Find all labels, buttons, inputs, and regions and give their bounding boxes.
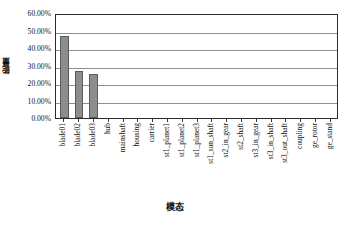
bar-chart: 能量 60.00%50.00%40.00%30.00%20.00%10.00%0… [0,0,349,231]
y-axis-tick-label: 10.00% [28,98,51,106]
bar-slot [233,15,248,118]
x-axis-tick-label: blade03 [89,123,97,146]
bar-slot [72,15,87,118]
bar-slot [160,15,175,118]
bar-slot [86,15,101,118]
x-axis-tick-label-slot: st1_planet1 [160,123,175,195]
x-axis-tick-label-slot: blade01 [56,123,71,195]
x-axis-tick-label: mainshaft [119,123,127,152]
x-axis-tick-label: st2_in_gear [222,123,230,157]
x-axis-tick-label-slot: coupling [293,123,308,195]
x-axis-tick-label-slot: carrier [145,123,160,195]
x-axis-tick-label: st2_shaft [237,123,245,150]
x-axis-tick-label-slot: blade03 [86,123,101,195]
bar[interactable] [60,36,69,118]
x-axis-tick-label: housing [133,123,141,146]
x-axis-tick-label-slot: blade02 [71,123,86,195]
x-axis-tick-label: blade01 [59,123,67,146]
x-axis-tick-label-slot: st3_out_shaft [278,123,293,195]
x-axis-tick-label: st3_out_shaft [281,123,289,163]
x-axis-tick-label: hub [104,123,112,134]
y-axis-tick-label: 30.00% [28,63,51,71]
x-axis-tick-label-slot: ge_rotor [308,123,323,195]
x-axis-tick-label: blade02 [74,123,82,146]
y-axis-tick-labels: 60.00%50.00%40.00%30.00%20.00%10.00%0.00… [14,14,53,120]
x-axis-tick-label-slot: st2_shaft [234,123,249,195]
x-axis-title: 模态 [0,200,349,213]
x-axis-tick-label: st1_planet3 [193,123,201,157]
y-axis-tick-label: 20.00% [28,80,51,88]
bar[interactable] [89,74,98,118]
x-axis-tick-label: st1_planet1 [163,123,171,157]
bar-slot [189,15,204,118]
bar-slot [277,15,292,118]
x-axis-tick-label: st1_planet2 [178,123,186,157]
x-axis-tick-label: carrier [148,123,156,142]
x-axis-tick-label: st1_sun_shaft [207,123,215,164]
x-axis-tick-label-slot: hub [100,123,115,195]
x-axis-tick-label-slot: mainshaft [115,123,130,195]
y-axis-title: 能量 [2,58,13,74]
y-axis-tick-label: 0.00% [31,115,51,123]
x-axis-tick-label-slot: housing [130,123,145,195]
bar-slot [321,15,336,118]
y-axis-tick-label: 50.00% [28,28,51,36]
x-axis-tick-label-slot: st1_sun_shaft [204,123,219,195]
bar-slot [101,15,116,118]
x-axis-tick-label: ge_rotor [311,123,319,148]
bar-slot [57,15,72,118]
x-axis-tick-label: coupling [296,123,304,149]
bar[interactable] [75,71,84,118]
bar-slot [292,15,307,118]
bar-slot [204,15,219,118]
bar-slot [116,15,131,118]
x-axis-tick-label-slot: st3_in_gear [248,123,263,195]
bar-slot [175,15,190,118]
plot-area [55,14,338,119]
y-axis-tick-label: 60.00% [28,10,51,18]
x-axis-tick-label: st3_in_gear [252,123,260,157]
bar-slot [130,15,145,118]
y-axis-tick-label: 40.00% [28,45,51,53]
x-axis-tick-label-slot: st1_planet3 [189,123,204,195]
x-axis-tick-label-slot: ge_stand [322,123,337,195]
bar-series [56,15,337,118]
bar-slot [145,15,160,118]
x-axis-tick-labels: blade01blade02blade03hubmainshafthousing… [55,123,338,195]
x-axis-tick-label: st3_in_shaft [267,123,275,159]
bar-slot [248,15,263,118]
x-axis-tick-label-slot: st2_in_gear [219,123,234,195]
bar-slot [219,15,234,118]
x-axis-tick-label-slot: st1_planet2 [174,123,189,195]
bar-slot [263,15,278,118]
x-axis-tick-label: ge_stand [326,123,334,149]
bar-slot [307,15,322,118]
x-axis-tick-label-slot: st3_in_shaft [263,123,278,195]
